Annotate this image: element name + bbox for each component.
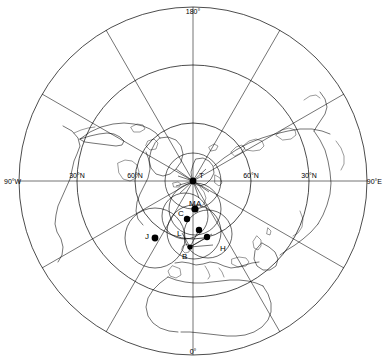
station-label-L: L [177, 229, 182, 238]
station-dot-L [196, 227, 202, 233]
coastline-siberia-arctic [214, 129, 330, 166]
coastline-siberia-inlet [276, 128, 296, 140]
coastline-north-africa [168, 277, 263, 286]
coastline-mediterranean-north [175, 262, 259, 268]
station-dot-B [187, 244, 192, 249]
coastline-italy [205, 266, 210, 279]
coastline-aleutian-islands [74, 127, 95, 133]
coastline-black-sea [232, 257, 249, 267]
station-label-C: C [178, 209, 184, 218]
coastline-canada-arctic [80, 123, 160, 139]
polar-projection-map: T M A C L J B H 180° 0° 90°W 90°E 30°N 6… [0, 0, 386, 360]
coastline-indian-subcontinent [293, 211, 303, 236]
coastline-iberia [168, 266, 181, 278]
station-label-H: H [220, 244, 226, 253]
coastline-west-africa [146, 277, 178, 332]
meridian-label-180: 180° [186, 8, 201, 15]
range-circle-L [167, 205, 221, 259]
coastline-caspian-sea [253, 236, 261, 250]
meridian-label-90e: 90°E [367, 178, 383, 185]
coastline-siberia-bays [243, 139, 264, 151]
coastline-kamchatka [314, 92, 327, 131]
meridian-label-0: 0° [190, 348, 197, 355]
coastline-japan [336, 141, 344, 170]
coastlines [55, 92, 344, 336]
map-svg: T M A C L J B H 180° 0° 90°W 90°E 30°N 6… [0, 0, 386, 360]
station-dot-H [204, 234, 210, 240]
coastline-arabia [254, 243, 278, 270]
latitude-label-60n-west: 60°N [127, 172, 143, 179]
latitude-label-60n-east: 60°N [243, 172, 259, 179]
coastline-bering-strait [304, 95, 320, 100]
station-label-A: A [196, 199, 202, 208]
coastline-greece [219, 268, 224, 277]
station-label-M: M [189, 199, 196, 208]
coastline-north-america-west [55, 126, 80, 262]
coastline-aral-sea [267, 228, 271, 235]
coastline-africa-east [181, 286, 271, 336]
station-label-J: J [145, 232, 149, 241]
meridian-label-90w: 90°W [4, 178, 22, 185]
coastline-arctic-archipelago [131, 124, 145, 132]
station-label-T: T [199, 171, 204, 180]
station-dot-C [184, 216, 190, 222]
coastline-iceland [173, 182, 181, 187]
station-label-B: B [182, 252, 187, 261]
station-dot-J [152, 235, 159, 242]
latitude-label-30n-east: 30°N [301, 172, 317, 179]
coastline-novaya-zemlya [231, 145, 245, 156]
station-dot-T [190, 178, 197, 185]
latitude-label-30n-west: 30°N [69, 172, 85, 179]
